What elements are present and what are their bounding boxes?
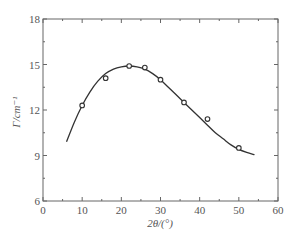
data-markers <box>80 64 241 151</box>
y-tick-label: 9 <box>35 150 41 162</box>
data-point-marker <box>205 117 210 122</box>
data-point-marker <box>103 76 108 81</box>
data-point-marker <box>158 77 163 82</box>
plot-frame <box>43 19 278 201</box>
x-tick-label: 40 <box>194 204 206 216</box>
chart: 010203040506069121518 2θ/(°) Γ/cm⁻¹ <box>0 0 299 244</box>
axes-box <box>43 19 278 201</box>
axis-ticks <box>43 19 278 201</box>
data-point-marker <box>182 100 187 105</box>
x-tick-label: 30 <box>155 204 167 216</box>
x-tick-label: 50 <box>233 204 245 216</box>
chart-svg: 010203040506069121518 2θ/(°) Γ/cm⁻¹ <box>0 0 299 244</box>
x-tick-label: 60 <box>273 204 285 216</box>
data-point-marker <box>127 64 132 69</box>
y-axis-label: Γ/cm⁻¹ <box>10 96 22 128</box>
y-tick-label: 18 <box>29 13 41 25</box>
y-tick-label: 6 <box>35 195 41 207</box>
x-tick-label: 10 <box>77 204 89 216</box>
y-tick-label: 15 <box>29 59 41 71</box>
x-tick-label: 0 <box>40 204 46 216</box>
y-tick-label: 12 <box>29 104 40 116</box>
data-point-marker <box>237 146 242 151</box>
data-point-marker <box>80 103 85 108</box>
tick-labels: 010203040506069121518 <box>29 13 284 216</box>
x-axis-label: 2θ/(°) <box>147 217 173 230</box>
data-point-marker <box>143 65 148 70</box>
x-tick-label: 20 <box>116 204 128 216</box>
